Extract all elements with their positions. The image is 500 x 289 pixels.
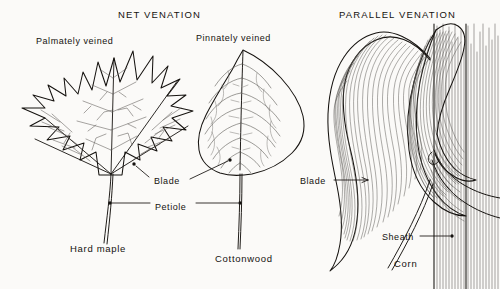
pointer-dot-icon [450,234,453,237]
cottonwood-leaf-icon [190,50,304,249]
pointer-line-icon [190,161,228,179]
specimen-name-corn: Corn [394,258,417,269]
heading-parallel-venation: PARALLEL VENATION [339,9,456,20]
pointer-line-icon [334,178,368,183]
pointer-dot-icon [238,201,241,204]
pointer-dot-icon [132,162,135,165]
pointer-dot-icon [108,201,111,204]
callout-sheath: Sheath [382,232,414,242]
pointer-line-icon [136,166,149,177]
leaf-venation-figure: NET VENATION PARALLEL VENATION Palmately… [0,0,500,289]
callout-blade-corn: Blade [300,176,326,186]
callout-blade-maple: Blade [154,176,180,186]
maple-leaf-icon [22,51,193,244]
heading-net-venation: NET VENATION [118,9,201,20]
callout-petiole: Petiole [155,202,186,212]
corn-plant-icon [328,24,500,289]
specimen-name-cottonwood: Cottonwood [215,253,273,264]
specimen-name-hard-maple: Hard maple [70,243,126,254]
pointer-dot-icon [228,158,231,161]
subtitle-pinnately-veined: Pinnately veined [196,33,271,43]
subtitle-palmately-veined: Palmately veined [36,36,113,46]
